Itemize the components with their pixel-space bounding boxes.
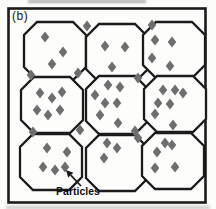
grain-bottom-left [20, 134, 82, 190]
figure-panel: (b) Particles [0, 0, 216, 209]
grain-top-middle [86, 24, 148, 82]
panel-label: (b) [12, 9, 28, 23]
scan-artifact-bottom [6, 206, 210, 209]
grain-top-right [143, 22, 205, 78]
grain-diagram-svg [0, 0, 216, 209]
scan-artifact-top [28, 0, 146, 3]
particles-label: Particles [48, 185, 108, 197]
grain-middle-left [21, 77, 83, 133]
